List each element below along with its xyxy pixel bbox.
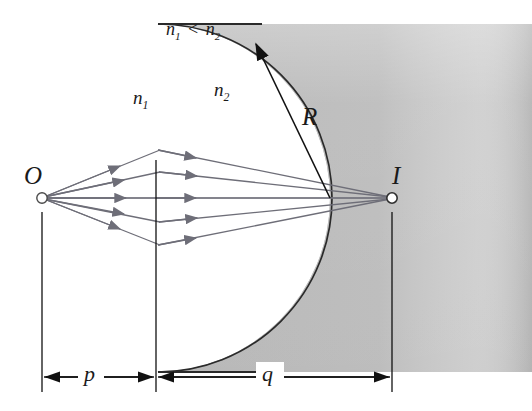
refracted-ray-arrowheads <box>156 150 197 245</box>
refraction-diagram: n1 < n2 n1 n2 R O I p q <box>0 0 532 411</box>
image-point-marker <box>387 193 397 203</box>
object-point-marker <box>37 193 47 203</box>
radius-label: R <box>302 104 317 129</box>
diagram-canvas <box>0 0 532 411</box>
incident-ray-arrowheads <box>44 166 126 229</box>
object-distance-label: p <box>84 363 95 385</box>
image-distance-label: q <box>262 363 273 385</box>
index-medium2-label: n2 <box>214 80 229 104</box>
index-relation-label: n1 < n2 <box>166 20 220 42</box>
index-medium1-label: n1 <box>133 88 148 112</box>
image-point-label: I <box>392 163 400 188</box>
object-point-label: O <box>24 163 42 188</box>
